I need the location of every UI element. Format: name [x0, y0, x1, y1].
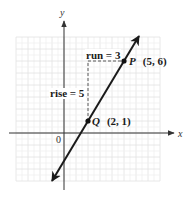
- point-q-marker: [85, 118, 90, 123]
- coordinate-plane: x y 0 Q (2, 1) P (5, 6) run = 3 rise = 5: [0, 0, 184, 200]
- point-q-label: Q (2, 1): [92, 111, 131, 128]
- origin-label: 0: [56, 134, 61, 145]
- rise-label: rise = 5: [50, 87, 85, 99]
- point-q-name: Q: [92, 115, 100, 127]
- point-p-coords: (5, 6): [143, 55, 167, 68]
- point-p-name: P: [129, 55, 136, 67]
- point-p-marker: [121, 58, 126, 63]
- run-label: run = 3: [86, 49, 121, 61]
- point-q-coords: (2, 1): [107, 115, 131, 128]
- x-axis-label: x: [177, 128, 183, 139]
- y-axis-label: y: [59, 7, 65, 18]
- slope-diagram: x y 0 Q (2, 1) P (5, 6) run = 3 rise = 5: [0, 0, 184, 200]
